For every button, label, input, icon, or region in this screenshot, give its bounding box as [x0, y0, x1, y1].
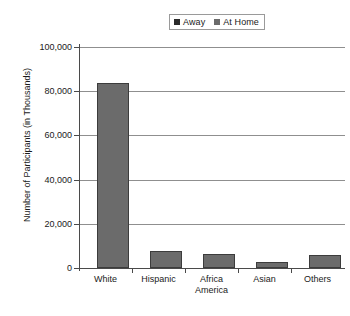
plot-area: [79, 47, 345, 268]
y-tick-label-0: 0: [10, 263, 72, 273]
y-axis-line: [79, 44, 80, 271]
x-label-white-line1: White: [79, 274, 132, 285]
y-tick-label-20000: 20,000: [10, 219, 72, 229]
x-label-africa-america: Africa America: [185, 274, 238, 296]
y-tick-label-80000: 80,000: [10, 86, 72, 96]
y-tick-label-40000: 40,000: [10, 175, 72, 185]
x-tick-mark-3: [238, 268, 239, 273]
gridline-100000: [79, 47, 345, 48]
legend-entry-away: Away: [174, 18, 205, 27]
x-tick-mark-4: [291, 268, 292, 273]
x-label-white: White: [79, 274, 132, 285]
legend-label-away: Away: [183, 18, 205, 27]
bar-white: [97, 83, 129, 268]
bar-hispanic: [150, 251, 182, 268]
chart-legend: Away At Home: [169, 14, 265, 30]
x-label-asian: Asian: [238, 274, 291, 285]
bar-africa-america: [203, 254, 235, 268]
x-label-others-line1: Others: [291, 274, 344, 285]
y-tick-label-60000: 60,000: [10, 130, 72, 140]
legend-swatch-at-home: [214, 19, 220, 25]
legend-swatch-away: [174, 19, 180, 25]
x-label-others: Others: [291, 274, 344, 285]
x-label-africa-america-line2: America: [185, 285, 238, 296]
legend-label-at-home: At Home: [223, 18, 259, 27]
x-label-asian-line1: Asian: [238, 274, 291, 285]
bar-chart: Away At Home Number of Participants (in …: [0, 0, 350, 316]
x-label-hispanic: Hispanic: [132, 274, 185, 285]
x-label-hispanic-line1: Hispanic: [132, 274, 185, 285]
bar-others: [309, 255, 341, 268]
x-label-africa-america-line1: Africa: [185, 274, 238, 285]
legend-entry-at-home: At Home: [214, 18, 259, 27]
y-tick-label-100000: 100,000: [10, 42, 72, 52]
x-axis-line: [79, 268, 345, 269]
x-tick-mark-1: [132, 268, 133, 273]
x-tick-mark-2: [185, 268, 186, 273]
